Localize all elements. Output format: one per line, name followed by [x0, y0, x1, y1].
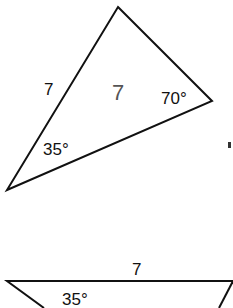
angle-label-35-top: 35°: [43, 140, 69, 159]
diagram-canvas: 7 7 70° 35° 7 35°: [0, 0, 233, 308]
triangle-bottom: [7, 281, 233, 308]
edge-mark: [228, 142, 231, 148]
triangle-bottom-right-edge: [219, 281, 233, 308]
angle-label-35-bottom: 35°: [62, 290, 88, 308]
angle-label-70: 70°: [161, 89, 187, 108]
side-length-label-bottom: 7: [132, 260, 141, 279]
side-length-label: 7: [44, 80, 53, 99]
center-label: 7: [112, 80, 124, 105]
